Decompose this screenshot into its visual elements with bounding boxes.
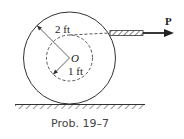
ground [15, 105, 145, 110]
force-label: P [165, 15, 172, 27]
center-label: O [71, 52, 79, 64]
outer-radius-label: 2 ft [55, 23, 70, 35]
rope [110, 31, 143, 36]
rope-guide-line [70, 33, 111, 35]
force-arrow [143, 29, 174, 37]
caption: Prob. 19–7 [51, 117, 109, 130]
inner-radius-label: 1 ft [68, 65, 83, 77]
wheel-diagram: P 2 ft 1 ft O Prob. 19–7 [0, 0, 184, 139]
